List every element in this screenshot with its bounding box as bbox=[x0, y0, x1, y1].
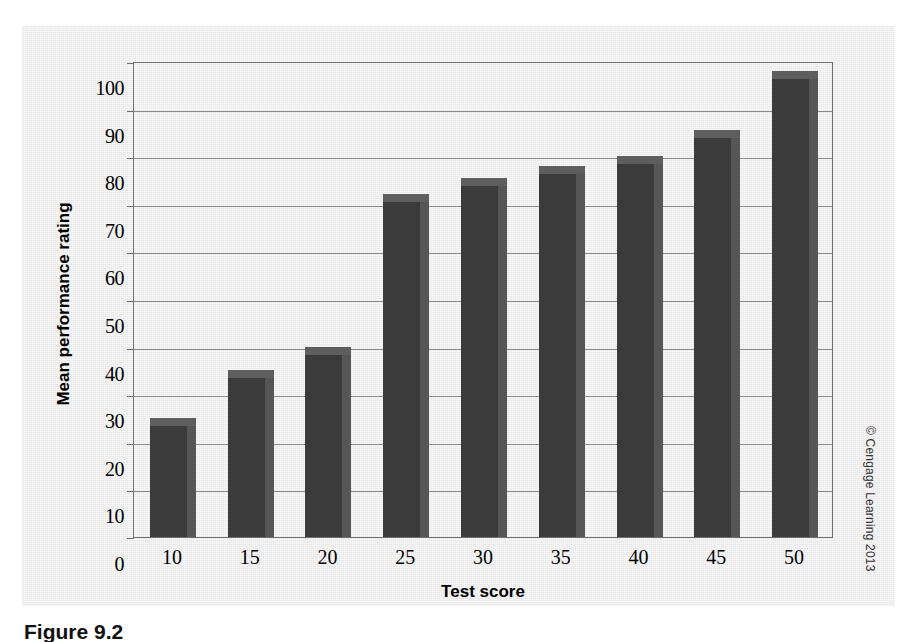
y-tickmark-80 bbox=[127, 158, 134, 159]
bar-front-face bbox=[694, 138, 731, 537]
bar-top-face bbox=[617, 156, 663, 164]
x-tick-label-20: 20 bbox=[317, 546, 337, 569]
bar-top-face bbox=[772, 71, 818, 79]
y-tickmark-0 bbox=[127, 538, 134, 539]
x-tick-label-25: 25 bbox=[395, 546, 415, 569]
bar-40 bbox=[617, 156, 663, 537]
y-tick-label-0: 0 bbox=[115, 553, 125, 576]
y-tickmark-50 bbox=[127, 301, 134, 302]
bar-side-face bbox=[809, 79, 818, 537]
x-tick-label-30: 30 bbox=[473, 546, 493, 569]
y-tick-label-30: 30 bbox=[105, 410, 124, 433]
bar-front-face bbox=[539, 174, 576, 537]
bar-front-face bbox=[617, 164, 654, 537]
y-tickmark-10 bbox=[127, 491, 134, 492]
bar-top-face bbox=[228, 370, 274, 378]
bar-side-face bbox=[576, 174, 585, 537]
x-tick-label-50: 50 bbox=[784, 546, 804, 569]
x-tick-label-10: 10 bbox=[162, 546, 182, 569]
x-tick-label-40: 40 bbox=[629, 546, 649, 569]
x-tick-label-45: 45 bbox=[706, 546, 726, 569]
y-tickmark-30 bbox=[127, 396, 134, 397]
y-tick-label-40: 40 bbox=[105, 362, 124, 385]
bar-10 bbox=[150, 418, 196, 537]
bar-front-face bbox=[305, 355, 342, 537]
x-axis-title: Test score bbox=[133, 582, 833, 602]
y-tick-label-80: 80 bbox=[105, 172, 124, 195]
bar-45 bbox=[694, 130, 740, 537]
bar-side-face bbox=[420, 202, 429, 537]
y-tickmark-90 bbox=[127, 111, 134, 112]
bar-top-face bbox=[305, 347, 351, 355]
copyright-notice: © Cengage Learning 2013 bbox=[863, 426, 877, 626]
bar-25 bbox=[383, 194, 429, 537]
y-tickmark-40 bbox=[127, 349, 134, 350]
bar-35 bbox=[539, 166, 585, 537]
bar-top-face bbox=[539, 166, 585, 174]
y-tickmark-20 bbox=[127, 444, 134, 445]
y-tick-label-100: 100 bbox=[96, 77, 125, 100]
bar-20 bbox=[305, 347, 351, 537]
y-tick-label-10: 10 bbox=[105, 505, 124, 528]
bar-side-face bbox=[731, 138, 740, 537]
plot-area bbox=[133, 62, 833, 538]
y-axis-title: Mean performance rating bbox=[54, 174, 74, 434]
bar-top-face bbox=[150, 418, 196, 426]
y-tick-label-20: 20 bbox=[105, 457, 124, 480]
bar-top-face bbox=[461, 178, 507, 186]
bar-15 bbox=[228, 370, 274, 537]
bar-side-face bbox=[187, 426, 196, 537]
figure-caption: Figure 9.2 bbox=[24, 620, 123, 642]
bar-front-face bbox=[461, 186, 498, 537]
bar-top-face bbox=[694, 130, 740, 138]
bar-side-face bbox=[498, 186, 507, 537]
bar-side-face bbox=[265, 378, 274, 537]
bar-50 bbox=[772, 71, 818, 537]
gridline-90 bbox=[134, 111, 832, 112]
bar-30 bbox=[461, 178, 507, 537]
x-axis-tick-labels: 101520253035404550 bbox=[133, 546, 833, 582]
bar-front-face bbox=[772, 79, 809, 537]
y-tick-label-60: 60 bbox=[105, 267, 124, 290]
bar-side-face bbox=[342, 355, 351, 537]
x-tick-label-35: 35 bbox=[551, 546, 571, 569]
bar-front-face bbox=[150, 426, 187, 537]
y-tick-label-50: 50 bbox=[105, 315, 124, 338]
bar-front-face bbox=[228, 378, 265, 537]
y-tickmark-100 bbox=[127, 63, 134, 64]
y-tickmark-60 bbox=[127, 253, 134, 254]
y-tick-label-70: 70 bbox=[105, 219, 124, 242]
x-tick-label-15: 15 bbox=[240, 546, 260, 569]
bar-front-face bbox=[383, 202, 420, 537]
y-tick-label-90: 90 bbox=[105, 124, 124, 147]
y-tickmark-70 bbox=[127, 206, 134, 207]
bar-top-face bbox=[383, 194, 429, 202]
bar-side-face bbox=[654, 164, 663, 537]
figure-panel: 100 90 80 70 60 50 40 30 20 10 0 101520 bbox=[22, 26, 895, 606]
